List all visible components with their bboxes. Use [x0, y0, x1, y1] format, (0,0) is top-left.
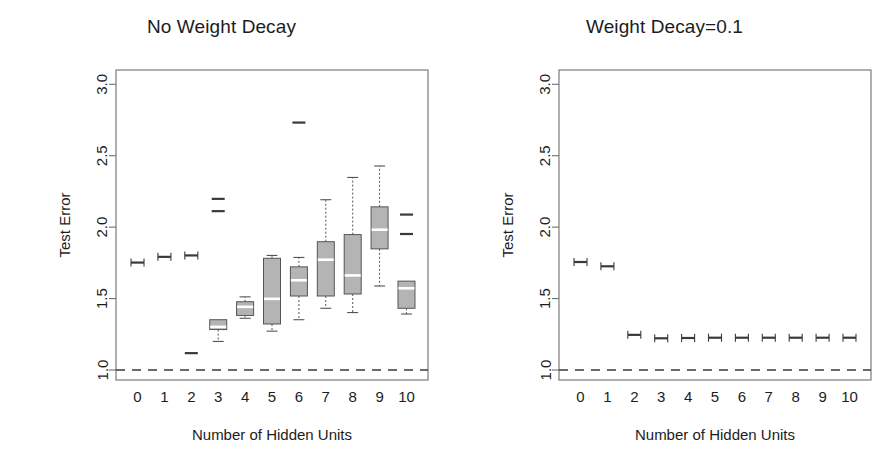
- boxplot-group: [709, 334, 722, 342]
- boxplot-group: [237, 297, 254, 318]
- x-tick-label: 0: [133, 388, 141, 405]
- x-tick-label: 5: [711, 388, 719, 405]
- x-tick-label: 1: [160, 388, 168, 405]
- x-tick-label: 3: [214, 388, 222, 405]
- boxplot-group: [789, 334, 802, 342]
- box-body: [317, 242, 334, 296]
- x-axis-title: Number of Hidden Units: [635, 426, 795, 443]
- boxplot-group: [344, 177, 361, 312]
- boxplot-svg-left: 1.01.52.02.53.0Test Error012345678910Num…: [0, 0, 443, 453]
- x-tick-label: 4: [241, 388, 249, 405]
- boxplot-group: [816, 334, 829, 342]
- x-tick-label: 8: [792, 388, 800, 405]
- boxplot-group: [655, 334, 668, 342]
- x-tick-label: 6: [295, 388, 303, 405]
- boxplot-group: [398, 215, 415, 314]
- x-tick-label: 2: [630, 388, 638, 405]
- box-body: [264, 258, 281, 324]
- y-tick-label: 2.5: [537, 145, 554, 166]
- boxplot-group: [317, 200, 334, 309]
- box-body: [371, 207, 388, 249]
- y-tick-label: 1.5: [537, 288, 554, 309]
- x-tick-label: 7: [765, 388, 773, 405]
- boxplot-group: [210, 199, 227, 342]
- box-body: [344, 235, 361, 294]
- panel-weight-decay-01: Weight Decay=0.1 1.01.52.02.53.0Test Err…: [443, 0, 886, 453]
- y-tick-label: 1.0: [537, 360, 554, 381]
- boxplot-group: [185, 251, 198, 353]
- x-tick-label: 9: [818, 388, 826, 405]
- plot-frame: [559, 70, 871, 380]
- boxplot-group: [735, 334, 748, 342]
- x-tick-label: 9: [375, 388, 383, 405]
- x-axis-title: Number of Hidden Units: [192, 426, 352, 443]
- y-tick-label: 1.0: [94, 360, 111, 381]
- x-tick-label: 1: [603, 388, 611, 405]
- boxplot-svg-right: 1.01.52.02.53.0Test Error012345678910Num…: [443, 0, 886, 453]
- x-tick-label: 2: [187, 388, 195, 405]
- y-tick-label: 2.5: [94, 145, 111, 166]
- x-tick-label: 0: [576, 388, 584, 405]
- x-tick-label: 10: [841, 388, 858, 405]
- y-tick-label: 1.5: [94, 288, 111, 309]
- x-tick-label: 7: [322, 388, 330, 405]
- boxplot-group: [290, 123, 307, 320]
- boxplot-group: [682, 334, 695, 342]
- panel-no-weight-decay: No Weight Decay 1.01.52.02.53.0Test Erro…: [0, 0, 443, 453]
- x-tick-label: 5: [268, 388, 276, 405]
- x-tick-label: 6: [738, 388, 746, 405]
- boxplot-group: [762, 334, 775, 342]
- y-axis-title: Test Error: [499, 192, 516, 257]
- boxplot-group: [131, 259, 144, 267]
- boxplot-group: [264, 255, 281, 331]
- x-tick-label: 10: [398, 388, 415, 405]
- boxplot-group: [601, 262, 614, 270]
- box-body: [398, 281, 415, 308]
- y-tick-label: 3.0: [94, 74, 111, 95]
- boxplot-group: [628, 331, 641, 339]
- x-tick-label: 8: [349, 388, 357, 405]
- x-tick-label: 4: [684, 388, 692, 405]
- box-body: [237, 302, 254, 316]
- y-tick-label: 2.0: [537, 217, 554, 238]
- boxplot-group: [574, 258, 587, 266]
- figure-root: No Weight Decay 1.01.52.02.53.0Test Erro…: [0, 0, 886, 453]
- y-axis-title: Test Error: [56, 192, 73, 257]
- y-tick-label: 3.0: [537, 74, 554, 95]
- boxplot-group: [371, 166, 388, 286]
- boxplot-group: [843, 334, 856, 342]
- x-tick-label: 3: [657, 388, 665, 405]
- y-tick-label: 2.0: [94, 217, 111, 238]
- boxplot-group: [158, 253, 171, 261]
